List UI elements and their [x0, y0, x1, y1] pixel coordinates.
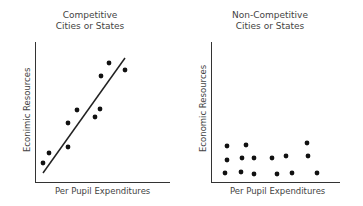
data-point	[239, 170, 244, 175]
data-point	[66, 121, 71, 126]
data-point	[99, 74, 104, 79]
data-point	[270, 156, 275, 161]
data-point	[41, 161, 46, 166]
data-point	[284, 154, 289, 159]
data-point	[240, 156, 245, 161]
left-points	[41, 61, 128, 166]
right-x-axis-label: Per Pupil Expenditures	[230, 186, 325, 196]
right-y-axis-label: Economic Resources	[198, 65, 208, 152]
data-point	[223, 171, 228, 176]
plot-area	[0, 0, 363, 206]
data-point	[93, 115, 98, 120]
left-axes	[35, 42, 170, 183]
figure: Competitive Cities or States Non-Competi…	[0, 0, 363, 206]
data-point	[225, 158, 230, 163]
right-points	[223, 141, 320, 177]
data-point	[244, 143, 249, 148]
data-point	[305, 141, 310, 146]
left-y-axis-label: Econimic Resources	[22, 68, 32, 152]
data-point	[225, 144, 230, 149]
data-point	[47, 151, 52, 156]
data-point	[290, 171, 295, 176]
data-point	[252, 172, 257, 177]
data-point	[315, 171, 320, 176]
data-point	[75, 108, 80, 113]
data-point	[123, 68, 128, 73]
data-point	[107, 61, 112, 66]
data-point	[66, 145, 71, 150]
data-point	[252, 156, 257, 161]
right-axes	[211, 42, 340, 183]
data-point	[98, 107, 103, 112]
data-point	[306, 154, 311, 159]
left-x-axis-label: Per Pupil Expenditures	[55, 186, 150, 196]
left-trend-line	[43, 58, 125, 173]
data-point	[275, 172, 280, 177]
